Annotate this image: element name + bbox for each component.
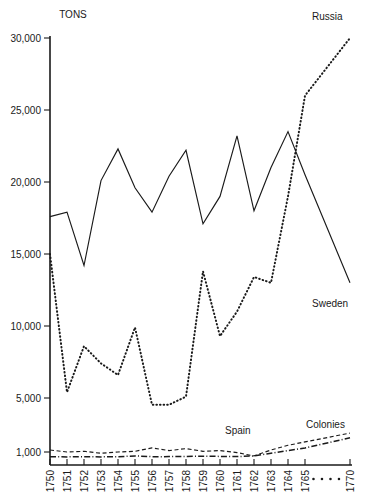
x-axis-gap-dot	[321, 478, 324, 481]
y-tick-label: 10,000	[10, 321, 41, 332]
series-label-sweden: Sweden	[312, 298, 348, 309]
x-tick-label: 1753	[96, 470, 107, 492]
series-line-spain	[50, 433, 350, 456]
x-axis-tick-labels: 1750175117521753175417551756175717581759…	[45, 470, 356, 492]
x-tick-label: 1751	[62, 470, 73, 492]
x-tick-label: 1770	[345, 470, 356, 492]
y-tick-label: 5,000	[16, 393, 41, 404]
x-axis-gap-dot	[312, 478, 315, 481]
series-label-spain: Spain	[225, 425, 251, 436]
x-tick-label: 1759	[198, 470, 209, 492]
x-tick-label: 1765	[300, 470, 311, 492]
y-axis-ticks	[44, 38, 50, 452]
x-tick-label: 1761	[232, 470, 243, 492]
chart-axes	[50, 36, 352, 465]
x-axis-gap-dot	[329, 478, 332, 481]
x-axis-gap-dot	[338, 478, 341, 481]
series-line-sweden	[50, 132, 350, 283]
x-tick-label: 1757	[164, 470, 175, 492]
x-axis-gap-dots	[312, 478, 340, 481]
series-label-colonies: Colonies	[306, 419, 345, 430]
x-tick-label: 1754	[113, 470, 124, 492]
chart-series-group	[50, 38, 350, 457]
series-labels-group: Russia Sweden Spain Colonies	[225, 11, 348, 436]
x-tick-label: 1750	[45, 470, 56, 492]
y-axis-tick-labels: 30,00025,00020,00015,00010,0005,0001,000	[10, 33, 41, 458]
x-axis-ticks	[50, 459, 350, 465]
series-line-russia	[50, 38, 350, 405]
series-line-colonies	[50, 438, 350, 457]
y-axis-unit-label: TONS	[59, 9, 87, 20]
x-tick-label: 1752	[79, 470, 90, 492]
x-tick-label: 1763	[266, 470, 277, 492]
x-tick-label: 1764	[283, 470, 294, 492]
y-tick-label: 1,000	[16, 447, 41, 458]
line-chart-svg: 30,00025,00020,00015,00010,0005,0001,000…	[0, 0, 368, 492]
y-tick-label: 15,000	[10, 249, 41, 260]
x-tick-label: 1758	[181, 470, 192, 492]
x-tick-label: 1756	[147, 470, 158, 492]
x-tick-label: 1755	[130, 470, 141, 492]
series-label-russia: Russia	[312, 11, 343, 22]
y-tick-label: 30,000	[10, 33, 41, 44]
y-tick-label: 20,000	[10, 177, 41, 188]
x-tick-label: 1762	[249, 470, 260, 492]
chart-container: 30,00025,00020,00015,00010,0005,0001,000…	[0, 0, 368, 492]
x-tick-label: 1760	[215, 470, 226, 492]
y-tick-label: 25,000	[10, 105, 41, 116]
